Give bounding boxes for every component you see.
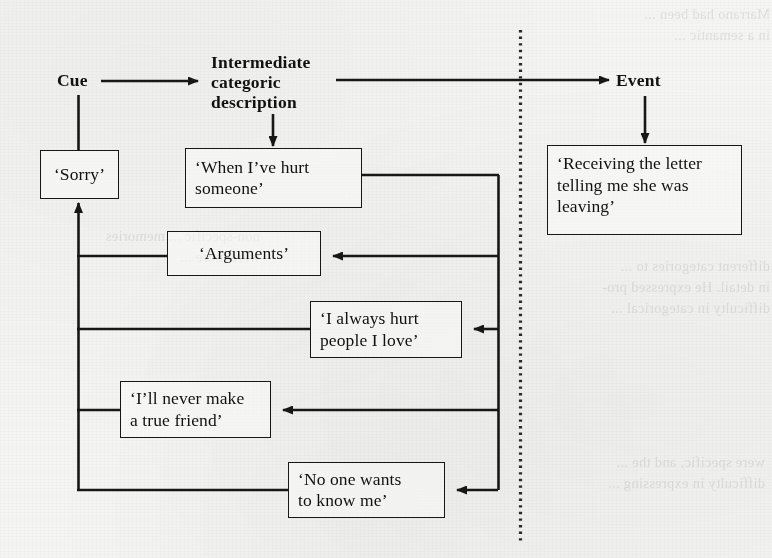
label-event: Event	[616, 70, 661, 90]
node-i-always-hurt-people-i-love: ‘I always hurt people I love’	[310, 301, 462, 358]
node-sorry: ‘Sorry’	[40, 150, 119, 199]
node-no-one-wants-to-know-me-text: ‘No one wants to know me’	[298, 469, 401, 512]
node-receiving-the-letter: ‘Receiving the letter telling me she was…	[547, 145, 742, 235]
node-i-always-hurt-people-i-love-text: ‘I always hurt people I love’	[320, 308, 419, 351]
node-no-one-wants-to-know-me: ‘No one wants to know me’	[288, 462, 445, 518]
node-arguments-text: ‘Arguments’	[199, 243, 289, 265]
node-when-ive-hurt-someone-text: ‘When I’ve hurt someone’	[195, 157, 309, 200]
node-sorry-text: ‘Sorry’	[54, 164, 105, 186]
node-arguments: ‘Arguments’	[167, 231, 321, 276]
node-ill-never-make-a-true-friend: ‘I’ll never make a true friend’	[120, 381, 271, 438]
node-receiving-the-letter-text: ‘Receiving the letter telling me she was…	[557, 153, 702, 218]
label-intermediate-categoric-description: Intermediate categoric description	[211, 52, 311, 112]
figure-page: Marrano had been ... in a semantic ... n…	[0, 0, 772, 558]
node-ill-never-make-a-true-friend-text: ‘I’ll never make a true friend’	[130, 388, 244, 431]
node-when-ive-hurt-someone: ‘When I’ve hurt someone’	[185, 148, 362, 208]
label-cue: Cue	[57, 70, 88, 90]
